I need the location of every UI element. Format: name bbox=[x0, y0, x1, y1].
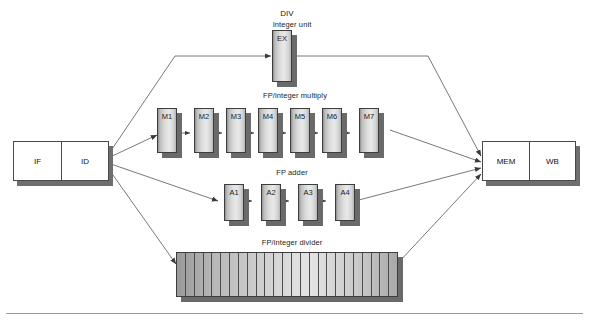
stage-ex-label: EX bbox=[273, 34, 291, 43]
div-segment bbox=[265, 253, 274, 296]
fp-divider-unit[interactable] bbox=[176, 252, 398, 297]
div-segment bbox=[195, 253, 204, 296]
div-segment bbox=[177, 253, 186, 296]
stage-m6[interactable]: M6 bbox=[322, 108, 342, 153]
fp-multiply-label: FP/integer multiply bbox=[215, 91, 375, 100]
stage-a3-label: A3 bbox=[299, 188, 317, 197]
div-segment bbox=[380, 253, 389, 296]
div-segment bbox=[283, 253, 292, 296]
div-segment bbox=[336, 253, 345, 296]
stage-a3[interactable]: A3 bbox=[298, 184, 318, 221]
div-segment bbox=[274, 253, 283, 296]
div-segment bbox=[319, 253, 328, 296]
stage-m3[interactable]: M3 bbox=[226, 108, 246, 153]
stage-m5-label: M5 bbox=[291, 112, 309, 121]
stage-a4-label: A4 bbox=[336, 188, 354, 197]
mem-wb-register[interactable]: MEM WB bbox=[482, 141, 576, 181]
if-id-register[interactable]: IF ID bbox=[13, 141, 109, 181]
div-segment bbox=[345, 253, 354, 296]
div-segment bbox=[257, 253, 266, 296]
div-segment bbox=[363, 253, 372, 296]
div-segments bbox=[177, 253, 397, 296]
div-segment bbox=[186, 253, 195, 296]
div-segment bbox=[239, 253, 248, 296]
stage-m5[interactable]: M5 bbox=[290, 108, 310, 153]
stage-if: IF bbox=[14, 142, 61, 180]
fp-adder-label: FP adder bbox=[242, 168, 342, 177]
div-segment bbox=[327, 253, 336, 296]
stage-m1-label: M1 bbox=[158, 112, 176, 121]
figure-bottom-rule bbox=[6, 313, 583, 314]
stage-wb: WB bbox=[529, 142, 575, 180]
div-label: DIV bbox=[176, 9, 398, 18]
stage-m4-label: M4 bbox=[259, 112, 277, 121]
integer-unit-label: Integer unit bbox=[232, 20, 352, 29]
stage-m6-label: M6 bbox=[323, 112, 341, 121]
stage-m7-label: M7 bbox=[360, 112, 378, 121]
div-segment bbox=[221, 253, 230, 296]
div-segment bbox=[354, 253, 363, 296]
stage-id: ID bbox=[61, 142, 108, 180]
div-segment bbox=[248, 253, 257, 296]
div-segment bbox=[212, 253, 221, 296]
stage-mem: MEM bbox=[483, 142, 529, 180]
fp-divider-label: FP/integer divider bbox=[227, 238, 357, 247]
pipeline-diagram: IF ID MEM WB Integer unit EX FP/integer … bbox=[0, 0, 589, 324]
stage-m2[interactable]: M2 bbox=[194, 108, 214, 153]
div-segment bbox=[301, 253, 310, 296]
stage-m2-label: M2 bbox=[195, 112, 213, 121]
stage-a1-label: A1 bbox=[225, 188, 243, 197]
stage-m3-label: M3 bbox=[227, 112, 245, 121]
stage-m7[interactable]: M7 bbox=[359, 108, 379, 153]
stage-a2[interactable]: A2 bbox=[261, 184, 281, 221]
div-segment bbox=[310, 253, 319, 296]
div-segment bbox=[204, 253, 213, 296]
div-segment bbox=[372, 253, 381, 296]
stage-a4[interactable]: A4 bbox=[335, 184, 355, 221]
div-segment bbox=[292, 253, 301, 296]
div-segment bbox=[389, 253, 397, 296]
stage-a2-label: A2 bbox=[262, 188, 280, 197]
stage-a1[interactable]: A1 bbox=[224, 184, 244, 221]
div-segment bbox=[230, 253, 239, 296]
stage-m4[interactable]: M4 bbox=[258, 108, 278, 153]
stage-ex[interactable]: EX bbox=[272, 30, 292, 82]
stage-m1[interactable]: M1 bbox=[157, 108, 177, 153]
